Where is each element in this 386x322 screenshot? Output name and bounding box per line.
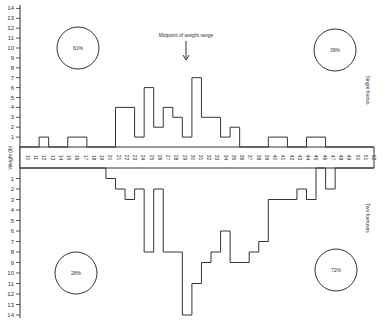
y-tick-label-lower: 11 bbox=[8, 281, 15, 287]
y-tick-label-lower: 9 bbox=[11, 260, 15, 266]
weight-tick-label: 19 bbox=[99, 155, 105, 161]
y-tick-label-lower: 5 bbox=[11, 218, 15, 224]
weight-tick-label: 18 bbox=[91, 155, 97, 161]
percent-circle-single-light-label: 61% bbox=[73, 45, 84, 51]
weight-tick-label: 31 bbox=[198, 155, 204, 161]
weight-tick-label: 51 bbox=[363, 155, 369, 161]
two-foetuses-side-label: Two foetuses bbox=[365, 203, 371, 233]
weight-tick-label: 36 bbox=[239, 155, 245, 161]
y-tick-label-upper: 12 bbox=[7, 25, 14, 31]
weight-tick-label: 13 bbox=[50, 155, 56, 161]
weight-tick-label: 24 bbox=[140, 155, 146, 161]
weight-tick-label: 48 bbox=[338, 155, 344, 161]
y-tick-label-upper: 10 bbox=[7, 45, 14, 51]
midpoint-label: Midpoint of weight range bbox=[159, 32, 214, 38]
y-tick-label-lower: 7 bbox=[11, 239, 15, 245]
weight-tick-label: 34 bbox=[223, 155, 229, 161]
weight-histogram-chart: 11223344556677889910101111121213131414We… bbox=[0, 0, 386, 322]
single-foetus-side-label: Single foetus bbox=[365, 76, 371, 105]
y-tick-label-upper: 14 bbox=[7, 5, 14, 11]
weight-tick-label: 27 bbox=[165, 155, 171, 161]
single-foetus-histogram bbox=[20, 78, 373, 147]
percent-circle-single-heavy-label: 39% bbox=[330, 47, 341, 53]
weight-tick-label: 10 bbox=[25, 155, 31, 161]
weight-tick-label: 26 bbox=[157, 155, 163, 161]
weight-tick-label: 25 bbox=[149, 155, 155, 161]
y-tick-label-upper: 1 bbox=[11, 134, 15, 140]
weight-tick-label: 30 bbox=[190, 155, 196, 161]
weight-tick-label: 32 bbox=[206, 155, 212, 161]
weight-tick-label: 42 bbox=[289, 155, 295, 161]
percent-circle-two-heavy-label: 72% bbox=[331, 267, 342, 273]
weight-tick-label: 35 bbox=[231, 155, 237, 161]
y-tick-label-lower: 14 bbox=[7, 312, 14, 318]
y-tick-label-upper: 13 bbox=[7, 15, 14, 21]
weight-tick-label: 52 bbox=[371, 155, 377, 161]
weight-tick-label: 38 bbox=[256, 155, 262, 161]
y-tick-label-lower: 1 bbox=[11, 176, 15, 182]
y-tick-label-upper: 4 bbox=[11, 104, 15, 110]
y-tick-label-lower: 10 bbox=[7, 270, 14, 276]
weight-tick-label: 29 bbox=[182, 155, 188, 161]
y-tick-label-upper: 9 bbox=[11, 55, 15, 61]
weight-tick-label: 12 bbox=[41, 155, 47, 161]
weight-tick-label: 50 bbox=[355, 155, 361, 161]
weight-tick-label: 33 bbox=[214, 155, 220, 161]
weight-tick-label: 16 bbox=[74, 155, 80, 161]
y-tick-label-lower: 6 bbox=[11, 228, 15, 234]
weight-tick-label: 11 bbox=[33, 155, 39, 160]
two-foetuses-histogram bbox=[20, 168, 373, 315]
weight-tick-label: 22 bbox=[124, 155, 130, 161]
y-tick-label-lower: 13 bbox=[7, 302, 14, 308]
y-tick-label-upper: 6 bbox=[11, 85, 15, 91]
weight-tick-label: 40 bbox=[272, 155, 278, 161]
y-tick-label-lower: 4 bbox=[11, 207, 15, 213]
weight-tick-label: 41 bbox=[280, 155, 286, 161]
weight-tick-label: 17 bbox=[83, 155, 89, 161]
weight-tick-label: 28 bbox=[173, 155, 179, 161]
y-tick-label-upper: 8 bbox=[11, 65, 15, 71]
weight-tick-label: 49 bbox=[346, 155, 352, 161]
weight-tick-label: 44 bbox=[305, 155, 311, 161]
weight-tick-label: 14 bbox=[58, 155, 64, 161]
weight-tick-label: 47 bbox=[330, 155, 336, 161]
y-tick-label-upper: 2 bbox=[11, 124, 15, 130]
weight-tick-label: 23 bbox=[132, 155, 138, 161]
weight-tick-label: 45 bbox=[313, 155, 319, 161]
weight-tick-label: 43 bbox=[297, 155, 303, 161]
weight-tick-label: 21 bbox=[116, 155, 122, 161]
weight-axis-label: Weight (lb) bbox=[7, 145, 13, 169]
y-tick-label-lower: 8 bbox=[11, 249, 15, 255]
y-tick-label-upper: 3 bbox=[11, 114, 15, 120]
weight-tick-label: 37 bbox=[247, 155, 253, 161]
y-tick-label-upper: 7 bbox=[11, 75, 15, 81]
weight-tick-label: 15 bbox=[66, 155, 72, 161]
y-tick-label-lower: 12 bbox=[7, 291, 14, 297]
weight-tick-label: 46 bbox=[322, 155, 328, 161]
y-tick-label-upper: 5 bbox=[11, 95, 15, 101]
weight-tick-label: 20 bbox=[107, 155, 113, 161]
y-tick-label-upper: 11 bbox=[8, 35, 15, 41]
y-tick-label-lower: 3 bbox=[11, 197, 15, 203]
y-tick-label-lower: 2 bbox=[11, 186, 15, 192]
percent-circle-two-light-label: 28% bbox=[71, 270, 82, 276]
weight-tick-label: 39 bbox=[264, 155, 270, 161]
